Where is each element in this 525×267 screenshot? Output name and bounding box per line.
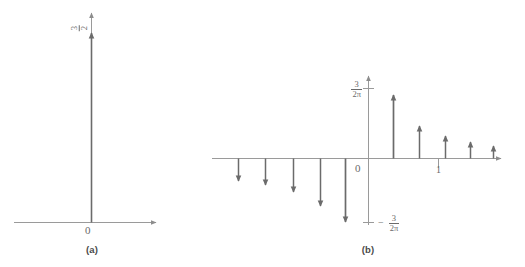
- panel-a-y-denominator: 2: [79, 25, 89, 31]
- panel-b-caption: (b): [347, 244, 389, 255]
- panel-b-y-neg-denominator: 2π: [389, 223, 400, 233]
- panel-b-y-label-positive: 3 2π: [342, 80, 362, 98]
- panel-b-y-pos-denominator: 2π: [351, 89, 362, 99]
- panel-a-caption: (a): [71, 244, 113, 255]
- panel-b-origin-label: 0: [355, 163, 361, 174]
- panel-b-plot: [190, 0, 525, 267]
- panel-a-origin-label: 0: [85, 225, 91, 236]
- panel-b-y-pos-numerator: 3: [351, 80, 362, 89]
- panel-b-xtick-label-1: 1: [436, 165, 441, 175]
- panel-b-y-neg-sign: −: [378, 218, 385, 228]
- panel-a-y-value-label: 3 2: [70, 17, 88, 39]
- panel-a-y-numerator: 3: [70, 25, 79, 31]
- panel-b-y-neg-numerator: 3: [389, 214, 400, 223]
- panel-b-y-label-negative: − 3 2π: [378, 214, 399, 232]
- panel-b: 3 2π − 3 2π 0 1 (b): [190, 0, 525, 267]
